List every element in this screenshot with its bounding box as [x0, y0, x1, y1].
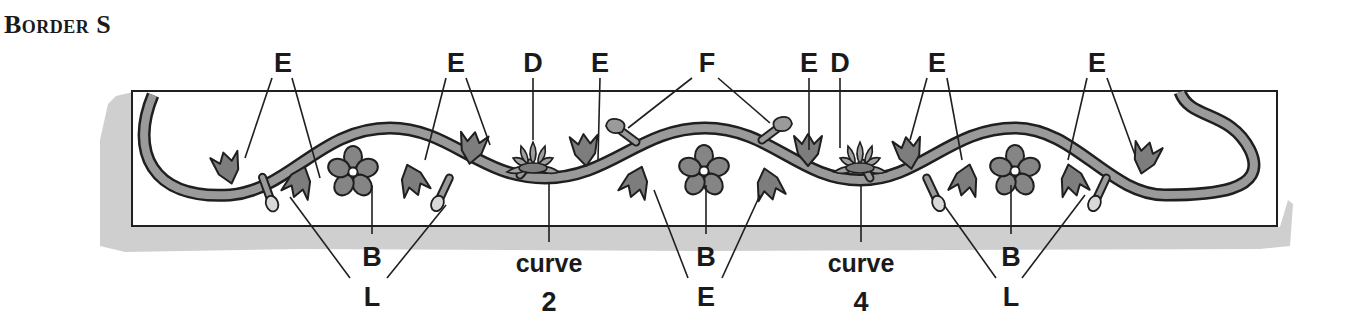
label-l: L — [1003, 282, 1020, 312]
label-b: B — [1001, 242, 1021, 272]
label-e: E — [591, 48, 609, 78]
label-e: E — [800, 48, 818, 78]
bottom-labels-row2: L 2 E 4 L — [364, 282, 1020, 317]
label-e: E — [274, 48, 292, 78]
label-curve: curve — [828, 249, 895, 277]
label-l: L — [364, 282, 381, 312]
top-labels: E E D E F E D E E — [274, 48, 1106, 78]
label-d: D — [523, 48, 543, 78]
label-curve: curve — [516, 249, 583, 277]
label-d: D — [830, 48, 850, 78]
label-curve-number: 2 — [541, 287, 556, 317]
label-e: E — [447, 48, 465, 78]
label-e: E — [928, 48, 946, 78]
label-e: E — [1088, 48, 1106, 78]
label-f: F — [699, 48, 716, 78]
label-curve-number: 4 — [853, 287, 868, 317]
label-e: E — [697, 282, 715, 312]
label-b: B — [696, 242, 716, 272]
label-b: B — [362, 242, 382, 272]
border-diagram: E E D E F E D E E B curve B curve B L 2 … — [0, 0, 1351, 330]
